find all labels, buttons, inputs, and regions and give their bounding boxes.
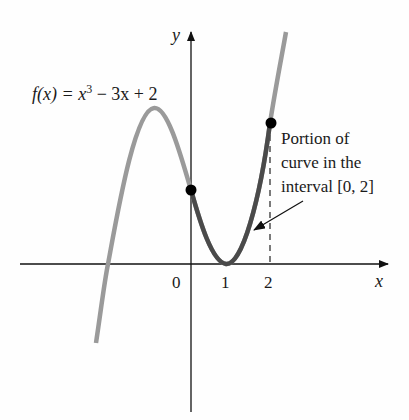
interval-annotation: Portion of curve in the interval [0, 2] <box>281 127 374 199</box>
function-graph: y x 0 1 2 f(x) = x3 − 3x + 2 Portion of … <box>0 0 409 420</box>
graph-canvas <box>0 0 409 420</box>
point-2-4 <box>266 118 277 129</box>
function-label: f(x) = x3 − 3x + 2 <box>32 85 157 103</box>
tick-label-0: 0 <box>172 274 181 291</box>
x-axis-label: x <box>375 272 383 290</box>
annotation-arrow <box>254 201 303 230</box>
tick-label-1: 1 <box>221 274 230 291</box>
annotation-line-1: Portion of <box>281 127 374 151</box>
annotation-line-3: interval [0, 2] <box>281 175 374 199</box>
function-label-prefix: f(x) = x <box>32 84 86 104</box>
y-axis-label: y <box>172 26 180 44</box>
point-0-2 <box>186 185 197 196</box>
function-label-suffix: − 3x + 2 <box>92 84 157 104</box>
tick-label-2: 2 <box>264 274 273 291</box>
highlighted-curve-segment <box>191 123 270 264</box>
annotation-line-2: curve in the <box>281 151 374 175</box>
